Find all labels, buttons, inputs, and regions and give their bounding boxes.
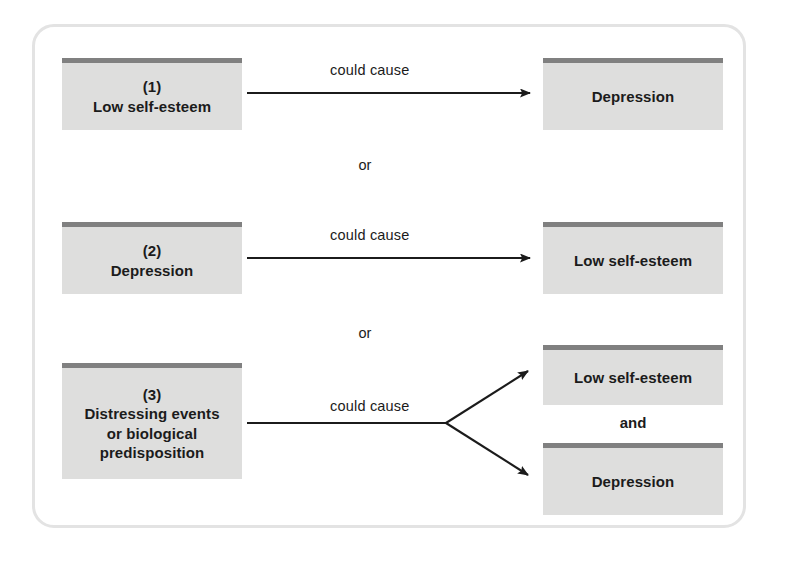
cause-box-2-label: Depression	[111, 262, 194, 279]
relation-label-1: could cause	[330, 62, 410, 78]
effect-box-3b-label: Depression	[592, 473, 675, 490]
effect-box-1a-content: Depression	[549, 87, 717, 106]
effect-box-3a-content: Low self-esteem	[549, 368, 717, 387]
cause-box-1-number: (1)	[68, 77, 236, 96]
cause-box-3-line-3: predisposition	[100, 444, 205, 461]
cause-box-3-line-2: or biological	[107, 425, 197, 442]
or-separator-2: or	[330, 325, 400, 341]
cause-box-1: (1) Low self-esteem	[62, 58, 242, 130]
effect-box-2a-content: Low self-esteem	[549, 251, 717, 270]
effect-box-3b: Depression	[543, 443, 723, 515]
causal-diagram-figure: (1) Low self-esteem could cause Depressi…	[0, 0, 793, 564]
cause-box-2-number: (2)	[68, 241, 236, 260]
effect-box-3b-content: Depression	[549, 472, 717, 491]
cause-box-1-label: Low self-esteem	[93, 98, 211, 115]
relation-label-2: could cause	[330, 227, 410, 243]
cause-box-3: (3) Distressing events or biological pre…	[62, 363, 242, 479]
cause-box-3-content: (3) Distressing events or biological pre…	[68, 385, 236, 462]
relation-label-3: could cause	[330, 398, 410, 414]
effect-box-3a: Low self-esteem	[543, 345, 723, 405]
effect-box-3a-label: Low self-esteem	[574, 369, 692, 386]
cause-box-3-number: (3)	[68, 385, 236, 404]
effect-box-1a-label: Depression	[592, 88, 675, 105]
cause-box-2: (2) Depression	[62, 222, 242, 294]
effect-box-1a: Depression	[543, 58, 723, 130]
cause-box-1-content: (1) Low self-esteem	[68, 77, 236, 115]
cause-box-3-line-1: Distressing events	[84, 405, 219, 422]
effect-box-2a: Low self-esteem	[543, 222, 723, 294]
or-separator-1: or	[330, 157, 400, 173]
effect-box-2a-label: Low self-esteem	[574, 252, 692, 269]
and-joiner-3: and	[543, 414, 723, 431]
cause-box-2-content: (2) Depression	[68, 241, 236, 279]
